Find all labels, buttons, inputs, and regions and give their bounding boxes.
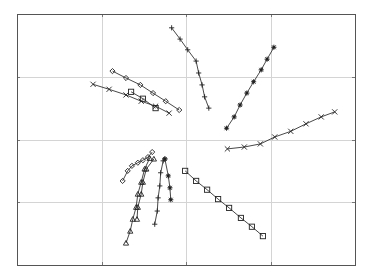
asterisk-marker-icon xyxy=(168,197,173,202)
plus-marker-icon xyxy=(155,208,160,213)
x-marker-icon xyxy=(90,82,95,87)
plus-marker-icon xyxy=(196,70,201,75)
series-x-right xyxy=(225,109,338,151)
asterisk-marker-icon xyxy=(224,126,229,131)
asterisk-marker-icon xyxy=(244,90,249,95)
x-marker-icon xyxy=(272,134,277,139)
asterisk-marker-icon xyxy=(162,156,167,161)
x-marker-icon xyxy=(303,121,308,126)
series-line xyxy=(155,159,165,224)
series-layer xyxy=(90,25,337,245)
x-marker-icon xyxy=(332,109,337,114)
series-line xyxy=(227,112,334,149)
asterisk-marker-icon xyxy=(167,185,172,190)
diamond-marker-icon xyxy=(110,69,115,74)
diamond-marker-icon xyxy=(177,107,182,112)
series-line xyxy=(165,159,171,200)
plus-marker-icon xyxy=(199,82,204,87)
plus-marker-icon xyxy=(157,183,162,188)
grid-lines xyxy=(17,14,355,265)
asterisk-marker-icon xyxy=(259,67,264,72)
asterisk-marker-icon xyxy=(271,45,276,50)
diamond-marker-icon xyxy=(120,178,125,183)
plus-marker-icon xyxy=(206,106,211,111)
asterisk-marker-icon xyxy=(237,102,242,107)
series-diamond-lower-left xyxy=(120,149,155,183)
square-marker-icon xyxy=(128,89,133,94)
x-marker-icon xyxy=(123,92,128,97)
series-asterisk-lower xyxy=(162,156,173,202)
x-marker-icon xyxy=(167,111,172,116)
series-diamond-upper-left xyxy=(110,69,182,113)
series-triangle-b xyxy=(134,156,156,221)
asterisk-marker-icon xyxy=(251,79,256,84)
series-line xyxy=(172,28,209,108)
plus-marker-icon xyxy=(158,170,163,175)
series-asterisk-upper-right xyxy=(224,45,277,131)
series-line xyxy=(185,171,263,236)
series-plus-lower xyxy=(152,156,167,226)
asterisk-marker-icon xyxy=(232,114,237,119)
series-plus-top xyxy=(169,25,211,111)
asterisk-marker-icon xyxy=(166,173,171,178)
plus-marker-icon xyxy=(152,222,157,227)
chart xyxy=(0,0,375,278)
series-square-lower-right xyxy=(183,168,266,238)
plus-marker-icon xyxy=(156,195,161,200)
x-marker-icon xyxy=(288,129,293,134)
x-marker-icon xyxy=(107,87,112,92)
series-line xyxy=(113,71,180,110)
triangle-marker-icon xyxy=(151,156,156,161)
x-marker-icon xyxy=(319,114,324,119)
asterisk-marker-icon xyxy=(265,57,270,62)
plus-marker-icon xyxy=(202,94,207,99)
